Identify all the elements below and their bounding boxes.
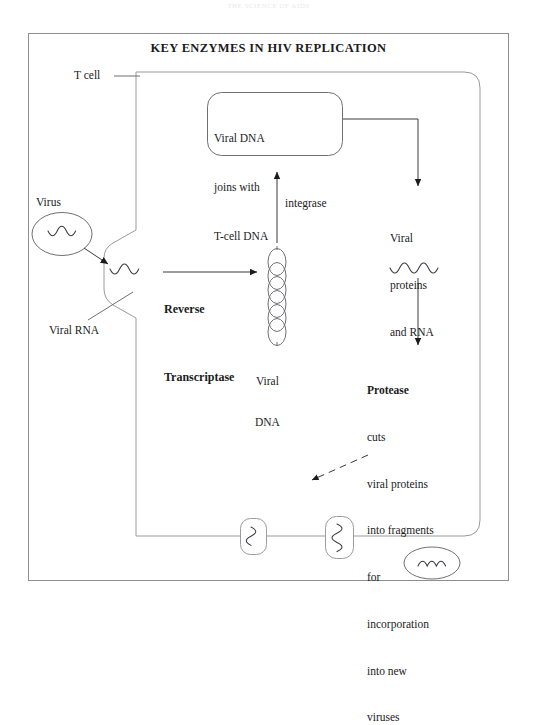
viral-products-line-3: and RNA [390, 325, 434, 341]
label-virus: Virus [36, 196, 61, 210]
label-reverse-transcriptase: Reverse Transcriptase [164, 252, 234, 434]
protease-line-6: into new [367, 664, 434, 680]
protease-line-7: viruses [367, 710, 434, 725]
viral-products-line-1: Viral [390, 231, 434, 247]
protease-heading: Protease [367, 383, 434, 399]
virus-particle [32, 213, 92, 256]
label-viral-rna: Viral RNA [49, 324, 99, 338]
protease-line-4: for [367, 570, 434, 586]
protease-line-3: into fragments [367, 523, 434, 539]
integration-box-line-2: joins with [214, 179, 339, 195]
protease-line-1: cuts [367, 430, 434, 446]
label-t-cell: T cell [74, 69, 100, 83]
reverse-transcriptase-line-2: Transcriptase [164, 366, 234, 389]
label-viral-dna: Viral DNA [255, 348, 280, 457]
protease-line-5: incorporation [367, 617, 434, 633]
virus-rna-squiggle [48, 226, 76, 236]
viral-dna-line-1: Viral [255, 375, 280, 389]
viral-products-line-2: proteins [390, 278, 434, 294]
budding-virus-1 [241, 519, 267, 555]
internal-rna-squiggle [110, 264, 139, 274]
integration-to-products-connector [343, 119, 418, 186]
integration-box-line-3: T-cell DNA [214, 228, 339, 244]
page-title: KEY ENZYMES IN HIV REPLICATION [0, 41, 537, 56]
budding-virus-2 [326, 517, 354, 559]
integration-box-line-1: Viral DNA [214, 130, 339, 146]
protease-line-2: viral proteins [367, 477, 434, 493]
label-viral-products: Viral proteins and RNA [390, 200, 434, 372]
integration-box-text: Viral DNA joins with T-cell DNA [214, 97, 339, 277]
viral-dna-line-2: DNA [255, 416, 280, 430]
assembly-dashed-arrow [312, 455, 368, 480]
reverse-transcriptase-line-1: Reverse [164, 298, 234, 321]
viral-rna-leader-line [88, 292, 133, 320]
protease-description: Protease cuts viral proteins into fragme… [367, 352, 434, 725]
